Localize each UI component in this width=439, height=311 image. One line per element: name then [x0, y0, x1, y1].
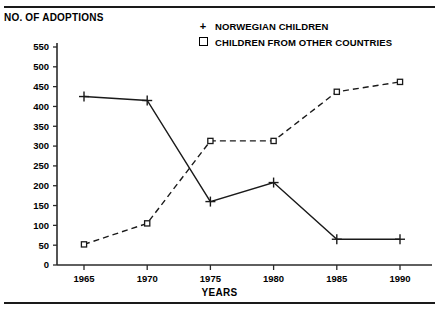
data-point-plus	[395, 234, 405, 244]
data-point-plus	[205, 197, 215, 207]
y-tick-label: 0	[44, 259, 49, 270]
y-tick-label: 150	[33, 200, 49, 211]
y-tick-label: 450	[33, 81, 49, 92]
x-tick-label: 1990	[389, 273, 410, 284]
data-point-square	[271, 138, 276, 143]
data-point-square	[81, 242, 86, 247]
y-tick-label: 400	[33, 101, 49, 112]
y-tick-label: 200	[33, 180, 49, 191]
y-tick-label: 350	[33, 121, 49, 132]
y-tick-label: 500	[33, 61, 49, 72]
y-tick-label: 50	[38, 240, 49, 251]
x-tick-label: 1980	[263, 273, 284, 284]
data-point-square	[334, 89, 339, 94]
chart-figure: NO. OF ADOPTIONS + NORWEGIAN CHILDREN CH…	[0, 0, 439, 311]
x-tick-label: 1975	[200, 273, 222, 284]
y-axis-ticks: 550500450400350300250200150100500	[33, 41, 57, 270]
x-tick-label: 1965	[73, 273, 95, 284]
data-series-layer	[79, 79, 405, 247]
plot-area: 550500450400350300250200150100500 196519…	[0, 0, 439, 311]
series-line-other-countries	[84, 82, 400, 245]
data-point-plus	[79, 92, 89, 102]
series-line-norwegian-children	[84, 97, 400, 240]
y-tick-label: 250	[33, 160, 49, 171]
data-point-square	[145, 221, 150, 226]
x-axis-title: YEARS	[0, 287, 439, 298]
x-axis-ticks: 196519701975198019851990	[73, 265, 410, 284]
x-tick-label: 1970	[137, 273, 158, 284]
data-point-plus	[142, 96, 152, 106]
y-tick-label: 100	[33, 220, 49, 231]
y-tick-label: 300	[33, 140, 49, 151]
bottom-divider-rule	[4, 302, 435, 304]
data-point-square	[397, 79, 402, 84]
x-tick-label: 1985	[326, 273, 348, 284]
y-tick-label: 550	[33, 41, 49, 52]
data-point-square	[208, 138, 213, 143]
